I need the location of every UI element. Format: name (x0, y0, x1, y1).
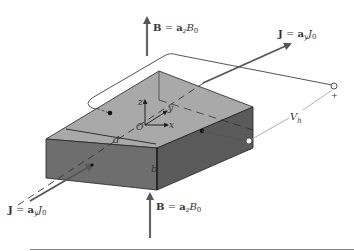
terminal-plus (331, 83, 337, 89)
dimension-d-label: d (113, 134, 119, 145)
current-density-label-top: J = ayJ0 (277, 28, 316, 41)
hall-voltage-label: Vh (290, 111, 302, 125)
axis-label-x: x (169, 120, 174, 130)
hall-effect-diagram: B = azB0 J = ayJ0 z y x O d b − + (0, 0, 354, 251)
terminal-minus-label: − (245, 145, 252, 154)
b-field-label-top: B = azB0 (153, 22, 198, 35)
probe-contact-top (108, 111, 113, 116)
axis-label-z: z (137, 97, 143, 107)
axis-label-y: y (167, 103, 174, 113)
terminal-plus-label: + (331, 91, 338, 100)
dimension-b-label: b (151, 163, 157, 174)
terminal-minus (246, 138, 252, 144)
current-density-arrow-top (203, 44, 290, 83)
b-field-label-bottom: B = azB0 (156, 201, 201, 214)
current-density-label-bottom: J = ayJ0 (7, 204, 46, 217)
origin-label: O (136, 122, 144, 132)
